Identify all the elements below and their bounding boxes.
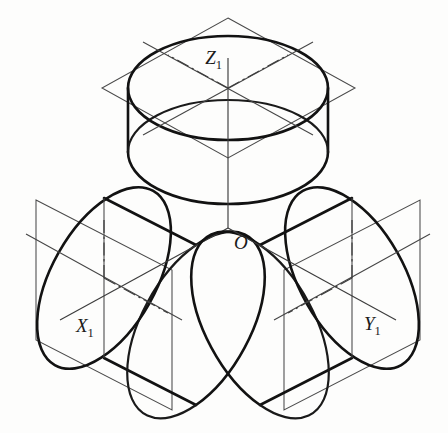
cylinder-x-near-ellipse (196, 232, 265, 405)
origin-label: O (234, 232, 248, 253)
cylinder-x-silhouette-bottom (104, 358, 196, 405)
centerline-z-dashdot-right (228, 55, 288, 88)
cylinder-y-silhouette-top (260, 198, 352, 245)
axis-y-line (228, 228, 396, 320)
technical-drawing-canvas: Z1 X1 (0, 0, 448, 433)
cylinder-y-near-ellipse (191, 232, 260, 405)
isometric-figure: Z1 X1 (0, 0, 448, 433)
cylinder-z-group: Z1 (102, 18, 355, 228)
axis-label-z: Z1 (205, 47, 222, 72)
axis-label-y: Y1 (364, 313, 381, 338)
cylinder-y-silhouette-bottom (260, 358, 352, 405)
axis-label-x: X1 (75, 315, 94, 340)
cylinder-x-silhouette-top (104, 198, 196, 245)
